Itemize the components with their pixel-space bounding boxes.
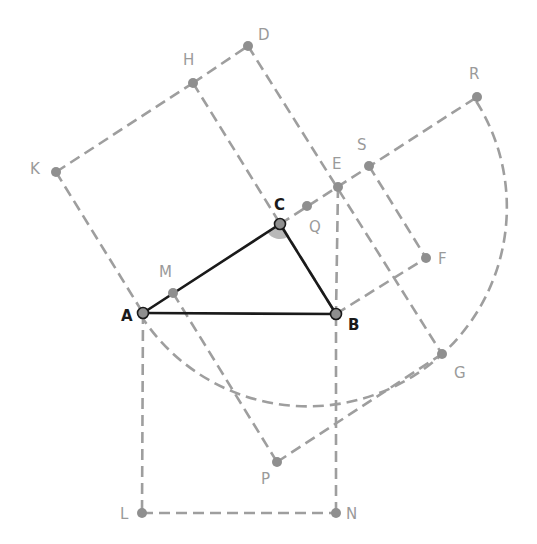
dashed-arc-A-G-R: [140, 99, 507, 407]
auxiliary-lines: [56, 46, 477, 513]
label-K: K: [30, 160, 41, 178]
point-B: [331, 309, 342, 320]
auxiliary-arc-layer: [140, 99, 507, 407]
triangle-side-AB: [143, 313, 336, 314]
point-E: [333, 182, 343, 192]
label-C: C: [274, 196, 285, 214]
point-G: [437, 349, 447, 359]
point-A: [138, 308, 149, 319]
point-K: [51, 167, 61, 177]
dashed-segment-EB: [336, 187, 338, 314]
geometry-diagram: ABCDEFGHKLMNPQRS: [0, 0, 537, 544]
dashed-segment-SF: [369, 166, 426, 258]
label-F: F: [438, 250, 447, 268]
label-H: H: [183, 51, 194, 69]
point-P: [272, 457, 282, 467]
point-H: [188, 78, 198, 88]
dashed-segment-HD: [193, 46, 248, 83]
point-N: [331, 508, 341, 518]
dashed-segment-AL: [142, 313, 143, 513]
point-F: [421, 253, 431, 263]
point-L: [137, 508, 147, 518]
point-labels: ABCDEFGHKLMNPQRS: [30, 26, 479, 523]
label-M: M: [159, 263, 172, 281]
label-Q: Q: [309, 218, 321, 236]
label-N: N: [346, 505, 357, 523]
label-E: E: [332, 155, 341, 173]
dashed-segment-KH: [56, 83, 193, 172]
label-B: B: [348, 316, 359, 334]
dashed-segment-KA: [56, 172, 143, 313]
label-A: A: [121, 307, 133, 325]
point-M: [168, 288, 178, 298]
label-S: S: [357, 136, 367, 154]
point-R: [472, 92, 482, 102]
point-D: [243, 41, 253, 51]
point-C: [275, 219, 286, 230]
point-S: [364, 161, 374, 171]
label-G: G: [454, 364, 466, 382]
label-D: D: [258, 26, 270, 44]
dashed-segment-MP: [173, 293, 277, 462]
point-Q: [302, 201, 312, 211]
label-R: R: [469, 65, 479, 83]
label-P: P: [261, 470, 270, 488]
dashed-segment-PG: [277, 354, 442, 462]
triangle-side-BC: [280, 224, 336, 314]
label-L: L: [120, 505, 129, 523]
